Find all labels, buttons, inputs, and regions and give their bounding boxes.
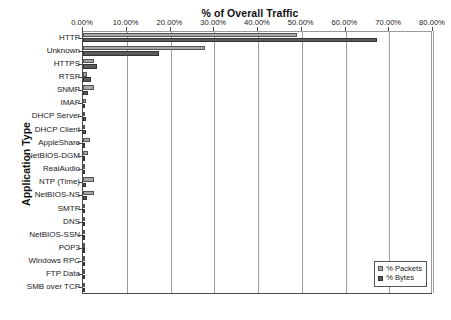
bar-packets: [83, 269, 85, 273]
y-axis-category-label: POP3: [59, 244, 80, 252]
bar-packets: [83, 217, 85, 221]
gridline: [171, 31, 172, 293]
bar-chart: % of Overall Traffic Application Type 0.…: [0, 0, 451, 320]
bar-bytes: [83, 104, 85, 108]
x-axis-tick-label: 20.00%: [157, 18, 183, 27]
bar-bytes: [83, 38, 377, 42]
y-axis-category-label: NetBIOS-NS: [35, 191, 80, 199]
bar-bytes: [83, 130, 86, 134]
legend-label-bytes: % Bytes: [386, 273, 414, 283]
x-axis-tick-label: 40.00%: [244, 18, 270, 27]
legend-swatch-bytes-icon: [378, 276, 383, 281]
y-axis-category-label: NetBIOS-SSN: [29, 231, 80, 239]
x-axis-tick-label: 70.00%: [375, 18, 401, 27]
gridline: [433, 31, 434, 293]
x-axis-tick-label: 60.00%: [332, 18, 358, 27]
bar-packets: [83, 204, 85, 208]
y-axis-category-label: DHCP Server: [32, 112, 80, 120]
bar-bytes: [83, 262, 85, 266]
y-axis-category-label: Windows RPC: [28, 257, 80, 265]
bar-bytes: [83, 143, 85, 147]
y-axis-category-label: NetBIOS-DGM: [27, 152, 80, 160]
bar-packets: [83, 243, 85, 247]
x-axis-tick-label: 10.00%: [113, 18, 139, 27]
bar-packets: [83, 72, 87, 76]
bar-bytes: [83, 117, 86, 121]
x-axis-tick-label: 50.00%: [288, 18, 314, 27]
bar-bytes: [83, 248, 85, 252]
bar-packets: [83, 112, 85, 116]
bar-packets: [83, 125, 85, 129]
y-axis-category-label: SMB over TCP: [27, 283, 80, 291]
y-axis-category-label: FTP Data: [46, 270, 80, 278]
gridline: [302, 31, 303, 293]
bar-bytes: [83, 196, 87, 200]
chart-legend: % Packets % Bytes: [374, 261, 427, 287]
bar-packets: [83, 230, 85, 234]
bar-packets: [83, 191, 94, 195]
legend-item-bytes: % Bytes: [378, 273, 422, 283]
y-axis-category-label: RealAudio: [43, 165, 80, 173]
x-axis-tick-label: 0.00%: [71, 18, 93, 27]
bar-bytes: [83, 275, 85, 279]
y-axis-category-label: DHCP Client: [35, 126, 80, 134]
bar-packets: [83, 85, 94, 89]
legend-item-packets: % Packets: [378, 264, 422, 274]
y-axis-category-label: NTP (Time): [39, 178, 80, 186]
legend-swatch-packets-icon: [378, 266, 383, 271]
bar-bytes: [83, 222, 85, 226]
bar-bytes: [83, 183, 86, 187]
gridline: [214, 31, 215, 293]
x-axis-tick-label: 30.00%: [200, 18, 226, 27]
y-axis-category-label: RTSP: [59, 73, 80, 81]
bar-packets: [83, 46, 205, 50]
y-axis-category-label: HTTPS: [54, 60, 80, 68]
bar-bytes: [83, 64, 97, 68]
bar-packets: [83, 151, 88, 155]
bar-packets: [83, 283, 85, 287]
y-axis-category-label: AppleShare: [38, 139, 80, 147]
y-axis-category-label: SNMP: [57, 86, 80, 94]
bar-packets: [83, 256, 85, 260]
bar-packets: [83, 177, 94, 181]
y-axis-title: Application Type: [20, 94, 32, 234]
bar-packets: [83, 33, 297, 37]
bar-bytes: [83, 209, 85, 213]
plot-area: % Packets % Bytes: [82, 31, 432, 294]
bar-packets: [83, 99, 86, 103]
bar-packets: [83, 59, 94, 63]
bar-bytes: [83, 51, 159, 55]
y-axis-category-label: Unknown: [47, 47, 80, 55]
legend-label-packets: % Packets: [386, 264, 422, 274]
bar-bytes: [83, 77, 91, 81]
bar-packets: [83, 164, 85, 168]
bar-bytes: [83, 170, 85, 174]
y-axis-category-label: SMTP: [58, 205, 80, 213]
x-axis-tick-label: 80.00%: [419, 18, 445, 27]
gridline: [389, 31, 390, 293]
gridline: [346, 31, 347, 293]
gridline: [258, 31, 259, 293]
bar-bytes: [83, 156, 85, 160]
bar-bytes: [83, 288, 85, 292]
bar-bytes: [83, 91, 88, 95]
bar-bytes: [83, 235, 85, 239]
gridline: [127, 31, 128, 293]
bar-packets: [83, 138, 90, 142]
y-axis-category-label: HTTP: [59, 34, 80, 42]
